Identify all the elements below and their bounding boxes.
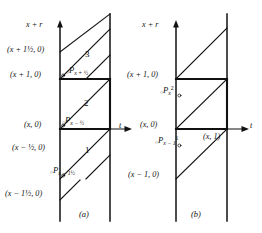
panel-a-ordinate-label-5: (x − 1½, 0)	[5, 190, 42, 198]
panel-a-region-label-1: 1	[85, 146, 90, 155]
panel-b-point-sub-1: x	[168, 91, 171, 97]
panel-b-point-sup-1: 2	[171, 86, 174, 92]
panel-b-point-label-2: ○Px − 11	[155, 136, 178, 147]
panel-b-point-label-1: ○Px2	[160, 86, 174, 97]
panel-b-horizontal-axis-arrowhead	[242, 126, 250, 132]
panel-a-ordinate-label-3: (x, 0)	[24, 121, 41, 129]
panel-b-point-sub-2: x − 1	[163, 141, 175, 147]
panel-b-point-sup-2: 1	[176, 136, 179, 142]
panel-a-caption: (a)	[79, 210, 89, 219]
panel-a-region-label-3: 3	[85, 50, 90, 59]
panel-b-ordinate-label-2: (x, 0)	[140, 121, 157, 129]
panel-a-horizontal-axis-label: t	[119, 122, 121, 130]
panel-a-point-sub-2: x − ½	[70, 121, 84, 127]
panel-b-vertical-axis-arrowhead	[173, 20, 179, 28]
panel-a-point-label-2: ○Px − ½	[62, 116, 84, 127]
panel-a-region-label-2: 2	[84, 99, 89, 108]
panel-b-diagonal-1	[176, 28, 227, 79]
panel-b-vertical-axis-label: x + r	[142, 21, 158, 29]
panel-b-horizontal-axis-label: t	[250, 122, 252, 130]
panel-a-diagonal-6	[86, 155, 110, 179]
figure-container: x + r (x + 1½, 0) (x + 1, 0) (x, 0) (x −…	[0, 0, 262, 233]
panel-b-ordinate-label-1: (x + 1, 0)	[127, 71, 158, 79]
panel-a-ordinate-label-1: (x + 1½, 0)	[7, 46, 44, 54]
panel-a-diagonal-7	[60, 180, 80, 200]
panel-b-ordinate-label-3: (x − 1, 0)	[128, 171, 159, 179]
panel-a-point-label-1: ○Px + ½	[66, 66, 88, 77]
panel-a-ordinate-label-4: (x − ½, 0)	[12, 144, 45, 152]
panel-a-vertical-axis-label: x + r	[26, 21, 42, 29]
panel-a-point-sub-3: x − 1½	[58, 171, 75, 177]
panel-b-point-marker-1	[178, 94, 181, 97]
panel-b-diagonal-2	[176, 79, 227, 129]
panel-b-abscissa-label: (x, 1)	[203, 133, 220, 141]
panel-a-ordinate-label-2: (x + 1, 0)	[10, 71, 41, 79]
panel-a-vertical-axis-arrowhead	[57, 20, 63, 28]
panel-a-point-label-3: ○Px − 1½	[50, 166, 75, 177]
panel-b-caption: (b)	[191, 210, 201, 219]
panel-a-horizontal-axis-arrowhead	[125, 126, 133, 132]
panel-a-point-sub-1: x + ½	[74, 71, 88, 77]
panel-a-diagonal-2	[60, 14, 110, 52]
